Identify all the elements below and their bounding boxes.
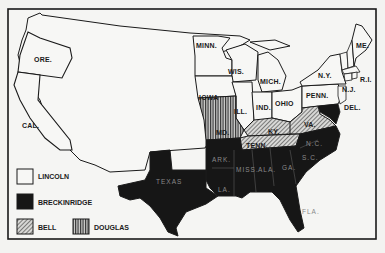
label-iowa: IOWA (199, 94, 218, 101)
label-ohio: OHIO (275, 100, 294, 107)
label-ala: ALA. (258, 166, 276, 173)
label-mich: MICH. (260, 78, 281, 85)
legend-label-lincoln: LINCOLN (38, 173, 69, 180)
legend-swatch-lincoln (17, 169, 33, 184)
state-connecticut (344, 73, 352, 81)
label-nc: N.C. (306, 140, 323, 147)
label-la: LA. (218, 186, 231, 193)
label-del: DEL. (344, 104, 361, 111)
legend-swatch-bell (17, 219, 33, 234)
label-va: VA. (304, 121, 316, 128)
label-sc: S.C. (302, 154, 319, 161)
label-ri: R.I. (360, 76, 372, 83)
legend-label-breckinridge: BRECKINRIDGE (38, 199, 92, 206)
label-nj: N.J. (342, 86, 356, 93)
label-ark: ARK. (212, 156, 231, 163)
label-md: MD. (216, 129, 229, 136)
label-texas: TEXAS (156, 178, 182, 185)
label-fla: FLA. (302, 208, 320, 215)
label-penn: PENN. (306, 92, 328, 99)
label-cal: CAL. (22, 122, 39, 129)
legend-swatch-breckinridge (17, 194, 33, 209)
label-me: ME. (356, 42, 369, 49)
label-miss: MISS. (236, 166, 259, 173)
label-ky: KY. (268, 128, 280, 135)
label-ga: GA. (282, 164, 296, 171)
legend-swatch-douglas (73, 219, 89, 234)
election-map-figure: ORE. CAL. MINN. WIS. MICH. IOWA ILL. IND… (0, 0, 385, 253)
legend-label-bell: BELL (38, 224, 57, 231)
us-map-1860: ORE. CAL. MINN. WIS. MICH. IOWA ILL. IND… (0, 0, 385, 253)
label-wis: WIS. (228, 68, 244, 75)
label-ill: ILL. (234, 108, 247, 115)
legend-label-douglas: DOUGLAS (94, 224, 129, 231)
state-rhode-island (352, 72, 357, 79)
label-ore: ORE. (34, 56, 52, 63)
label-minn: MINN. (196, 42, 217, 49)
label-tenn: TENN. (246, 142, 268, 149)
label-ind: IND. (256, 104, 271, 111)
label-ny: N.Y. (318, 72, 332, 79)
